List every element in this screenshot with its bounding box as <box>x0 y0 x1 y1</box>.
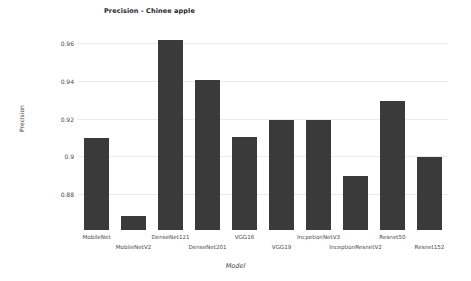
x-tick-label: DenseNet121 <box>151 234 189 240</box>
chart-title: Precision - Chinee apple <box>104 7 195 15</box>
x-tick-label: MobileNet <box>82 234 110 240</box>
bar[interactable] <box>158 40 182 230</box>
bar[interactable] <box>84 138 108 230</box>
bar[interactable] <box>269 120 293 230</box>
bar[interactable] <box>121 216 145 230</box>
bar[interactable] <box>343 176 367 230</box>
bar[interactable] <box>380 101 404 230</box>
bar[interactable] <box>417 157 441 230</box>
y-tick-label: 0.92 <box>34 116 74 123</box>
gridline <box>78 43 448 44</box>
x-axis-label: Model <box>0 262 471 270</box>
y-axis-tick-labels: 0.880.90.920.940.96 <box>30 28 74 230</box>
x-tick-label: Resnet50 <box>379 234 405 240</box>
y-tick-label: 0.96 <box>34 40 74 47</box>
y-tick-label: 0.94 <box>34 78 74 85</box>
x-tick-label: InceptionResnetV2 <box>329 244 382 250</box>
x-tick-label: Resnet152 <box>415 244 445 250</box>
x-axis-tick-labels: MobileNetMobileNetV2DenseNet121DenseNet2… <box>78 230 448 260</box>
x-tick-label: IncpetionNetV3 <box>297 234 340 240</box>
x-tick-label: MobileNetV2 <box>116 244 152 250</box>
gridline <box>78 81 448 82</box>
y-axis-label: Precision <box>18 89 25 149</box>
bar[interactable] <box>306 120 330 230</box>
bar[interactable] <box>232 137 256 230</box>
bar[interactable] <box>195 80 219 230</box>
x-tick-label: DenseNet201 <box>188 244 226 250</box>
bar-chart-figure: Precision - Chinee apple Precision 0.880… <box>0 0 471 281</box>
x-tick-label: VGG19 <box>272 244 292 250</box>
y-tick-label: 0.88 <box>34 191 74 198</box>
plot-area <box>78 28 448 230</box>
y-tick-label: 0.9 <box>34 153 74 160</box>
x-tick-label: VGG16 <box>235 234 255 240</box>
